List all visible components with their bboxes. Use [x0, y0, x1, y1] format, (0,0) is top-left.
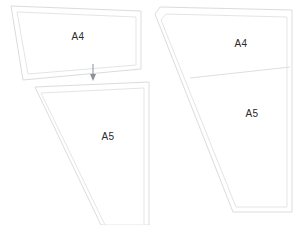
- left-a4-shape-inner: [17, 12, 136, 74]
- down-arrow-head: [90, 74, 96, 81]
- diagram-svg: A4 A5 A4 A5: [0, 0, 299, 225]
- right-combined-shape-inner: [161, 14, 287, 207]
- left-a4-label: A4: [71, 31, 84, 42]
- left-group: A4 A5: [11, 6, 149, 225]
- diagram-canvas: A4 A5 A4 A5: [0, 0, 299, 225]
- right-a5-label: A5: [245, 108, 258, 119]
- right-group: A4 A5: [155, 7, 292, 212]
- right-a4-label: A4: [234, 38, 247, 49]
- left-a5-label: A5: [101, 131, 114, 142]
